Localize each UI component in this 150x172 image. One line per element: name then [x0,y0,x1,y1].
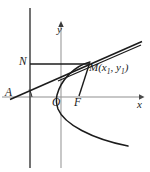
point-label-n: N [19,56,27,68]
x-axis-label: x [137,99,142,110]
point-label-f: F [74,97,81,109]
y-axis-label: y [57,24,62,35]
m-close-paren: ) [125,61,129,73]
geometry-canvas [0,0,150,172]
point-label-a: A [5,87,12,99]
point-label-o: O [52,97,60,109]
point-label-m: M(x1, y1) [89,62,128,76]
y-axis [58,21,63,168]
parabola-figure: A N O F y x M(x1, y1) [0,0,150,172]
m-name: M [89,61,98,73]
